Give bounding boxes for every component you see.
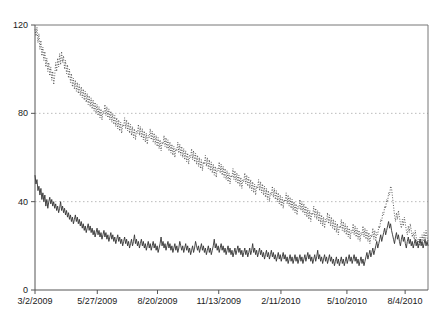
axis-frame [35,25,428,290]
x-tick-label: 2/11/2010 [243,296,319,306]
y-axis-ticks [31,25,35,290]
series-upper-dotted [35,27,428,246]
grid-lines [35,113,428,201]
chart-plot-area [0,0,447,320]
y-tick-label: 80 [0,108,28,118]
y-tick-label: 120 [0,20,28,30]
series-lower-solid [35,175,428,266]
chart-container: 04080120 3/2/20095/27/20098/20/200911/13… [0,0,447,320]
data-series-group [35,27,428,266]
x-tick-label: 8/4/2010 [367,296,443,306]
y-tick-label: 0 [0,285,28,295]
y-tick-label: 40 [0,197,28,207]
x-axis-ticks [35,290,405,294]
